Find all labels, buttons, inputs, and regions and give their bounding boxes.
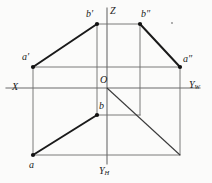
point-marker-a-dprime: [178, 65, 182, 69]
x-axis-label: X: [12, 82, 18, 92]
projection-drawing-canvas: [0, 0, 212, 183]
stray-dot: [171, 22, 173, 24]
point-label-a-plan: a: [29, 160, 34, 170]
origin-label: O: [100, 75, 107, 85]
yh-axis-label-subscript: H: [105, 169, 110, 176]
point-marker-b-prime: [95, 22, 99, 26]
z-axis-label: Z: [110, 6, 116, 16]
axis-lines-group: [6, 8, 200, 164]
segment-a-b-plan: [33, 115, 97, 155]
point-marker-b-dprime: [138, 22, 142, 26]
point-label-b-plan: b: [99, 101, 104, 111]
yw-axis-label-subscript: W: [195, 83, 200, 90]
point-marker-a-plan: [31, 153, 35, 157]
segment-b-dprime-a-dprime: [140, 24, 180, 67]
segment-a-prime-b-prime: [33, 24, 97, 67]
point-marker-a-prime: [31, 65, 35, 69]
bisector-line: [107, 88, 180, 155]
point-label-a-prime: a′: [22, 52, 29, 62]
point-marker-b-plan: [95, 113, 99, 117]
yh-axis-label: YH: [99, 166, 109, 177]
projection-drawing: X Z O YW YH a′b′b″a″ba: [0, 0, 212, 183]
point-label-a-dprime: a″: [183, 54, 192, 64]
point-label-b-prime: b′: [86, 9, 93, 19]
point-label-b-dprime: b″: [141, 9, 150, 19]
yw-axis-label: YW: [189, 80, 200, 91]
